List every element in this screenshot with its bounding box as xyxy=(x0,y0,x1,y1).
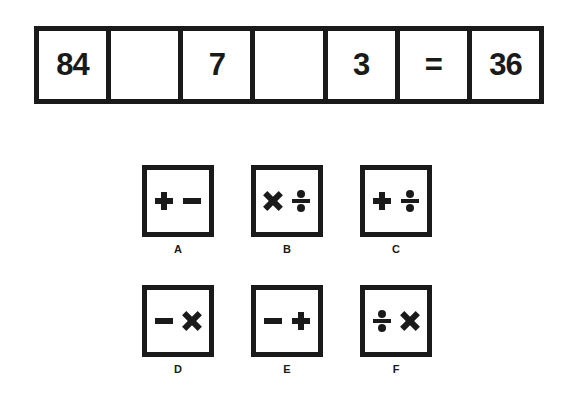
option-box[interactable] xyxy=(142,165,214,237)
option-f[interactable]: F xyxy=(357,285,435,375)
equation-cell-result: 36 xyxy=(472,31,539,99)
divide-icon xyxy=(399,190,421,212)
equation-cell-blank-operator[interactable] xyxy=(111,31,183,99)
option-label: E xyxy=(248,363,326,375)
plus-icon xyxy=(290,310,312,332)
option-label: F xyxy=(357,363,435,375)
equation-cell-equals: = xyxy=(400,31,472,99)
option-e[interactable]: E xyxy=(248,285,326,375)
option-label: C xyxy=(357,243,435,255)
equation-cell-blank-operator[interactable] xyxy=(255,31,327,99)
option-d[interactable]: D xyxy=(139,285,217,375)
option-label: A xyxy=(139,243,217,255)
option-c[interactable]: C xyxy=(357,165,435,255)
equation-cell-number: 7 xyxy=(183,31,255,99)
plus-icon xyxy=(371,190,393,212)
option-box[interactable] xyxy=(251,285,323,357)
option-box[interactable] xyxy=(360,165,432,237)
option-box[interactable] xyxy=(360,285,432,357)
times-icon xyxy=(262,190,284,212)
option-box[interactable] xyxy=(251,165,323,237)
minus-icon xyxy=(153,310,175,332)
option-label: B xyxy=(248,243,326,255)
minus-icon xyxy=(181,190,203,212)
option-label: D xyxy=(139,363,217,375)
option-b[interactable]: B xyxy=(248,165,326,255)
minus-icon xyxy=(262,310,284,332)
equation-cell-number: 84 xyxy=(39,31,111,99)
plus-icon xyxy=(153,190,175,212)
equation-strip: 84 7 3 = 36 xyxy=(34,26,544,104)
times-icon xyxy=(181,310,203,332)
divide-icon xyxy=(371,310,393,332)
divide-icon xyxy=(290,190,312,212)
equation-cell-number: 3 xyxy=(328,31,400,99)
times-icon xyxy=(399,310,421,332)
option-a[interactable]: A xyxy=(139,165,217,255)
option-box[interactable] xyxy=(142,285,214,357)
